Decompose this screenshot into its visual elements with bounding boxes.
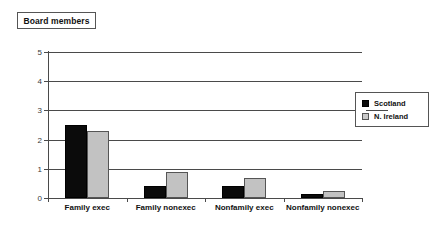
y-axis-tick-label: 1 — [2, 164, 42, 173]
plot-area — [48, 52, 362, 198]
legend-label-scotland: Scotland — [374, 99, 406, 108]
y-axis-tick-mark — [44, 81, 48, 82]
bar-n-ireland-nonfamily-exec — [244, 178, 266, 198]
y-axis-tick-label: 5 — [2, 48, 42, 57]
legend-item-n-ireland: N. Ireland — [362, 110, 428, 123]
legend-item-scotland: Scotland — [362, 97, 428, 110]
y-axis-tick-mark — [44, 110, 48, 111]
black-square-icon — [362, 100, 369, 107]
gridline — [48, 110, 362, 111]
x-axis-tick-mark — [284, 198, 285, 202]
x-axis-tick-mark — [127, 198, 128, 202]
x-axis-category-label: Family exec — [65, 203, 110, 212]
y-axis-tick-label: 0 — [2, 194, 42, 203]
y-axis-labels: 012345 — [0, 0, 42, 230]
bar-n-ireland-family-nonexec — [166, 172, 188, 198]
gridline-stub — [366, 110, 388, 111]
bar-n-ireland-nonfamily-nonexec — [323, 191, 345, 198]
y-axis-tick-mark — [44, 52, 48, 53]
gridline — [48, 81, 362, 82]
bar-scotland-family-exec — [65, 125, 87, 198]
y-axis-tick-label: 4 — [2, 77, 42, 86]
bar-scotland-family-nonexec — [144, 186, 166, 198]
y-axis-tick-mark — [44, 169, 48, 170]
bar-scotland-nonfamily-exec — [222, 186, 244, 198]
x-axis-tick-mark — [48, 198, 49, 202]
y-axis-tick-label: 3 — [2, 106, 42, 115]
bar-scotland-nonfamily-nonexec — [301, 194, 323, 198]
x-axis-category-label: Nonfamily nonexec — [286, 203, 359, 212]
gridline — [48, 52, 362, 53]
y-axis-tick-label: 2 — [2, 135, 42, 144]
y-axis-tick-mark — [44, 140, 48, 141]
gray-square-icon — [362, 113, 369, 120]
x-axis-category-label: Nonfamily exec — [215, 203, 274, 212]
legend-label-n-ireland: N. Ireland — [374, 112, 408, 121]
x-axis-category-label: Family nonexec — [136, 203, 196, 212]
bar-chart: 012345 Family execFamily nonexecNonfamil… — [0, 0, 442, 230]
x-axis-tick-mark — [362, 198, 363, 202]
bar-n-ireland-family-exec — [87, 131, 109, 198]
x-axis-tick-mark — [205, 198, 206, 202]
